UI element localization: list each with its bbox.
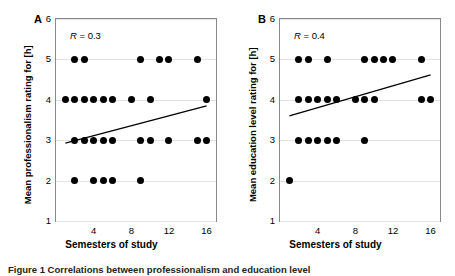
y-tick-label: 3 [270,135,275,145]
panel-b-letter: B [258,14,266,25]
y-tick-label: 4 [46,95,51,105]
data-point [418,96,425,103]
panel-a: A Mean professionalism rating for [h] R … [0,0,227,258]
regression-line [56,19,216,221]
data-point [109,137,116,144]
data-point [324,56,331,63]
data-point [81,56,88,63]
data-point [380,56,387,63]
data-point [81,137,88,144]
data-point [100,96,107,103]
x-tick-label: 8 [129,226,134,236]
gridline-y [56,221,216,222]
x-tick-label: 12 [164,226,175,236]
data-point [305,137,312,144]
data-point [333,137,340,144]
data-point [147,96,154,103]
x-tick-label: 4 [91,226,96,236]
data-point [286,177,293,184]
y-tick-label: 2 [46,176,51,186]
y-tick-label: 3 [46,135,51,145]
data-point [203,137,210,144]
x-tick-label: 4 [315,226,320,236]
data-point [194,56,201,63]
data-point [71,137,78,144]
y-tick-label: 1 [270,216,275,226]
y-tick-label: 1 [46,216,51,226]
data-point [90,137,97,144]
data-point [371,56,378,63]
data-point [418,56,425,63]
panel-b-plot-area: R = 0.4 123456481216 [279,18,441,222]
x-tick-label: 12 [388,226,399,236]
y-tick-label: 6 [270,14,275,24]
data-point [305,96,312,103]
x-tick-label: 16 [201,226,212,236]
data-point [147,137,154,144]
panel-b-x-axis-title: Semesters of study [222,240,449,250]
data-point [109,177,116,184]
figure-caption: Figure 1 Correlations between profession… [8,264,448,276]
data-point [324,96,331,103]
data-point [156,56,163,63]
data-point [137,137,144,144]
x-tick-label: 8 [353,226,358,236]
data-point [295,137,302,144]
regression-line [280,19,440,221]
y-tick-label: 5 [46,55,51,65]
data-point [324,137,331,144]
data-point [100,137,107,144]
y-tick-label: 5 [270,55,275,65]
y-tick-label: 2 [270,176,275,186]
panel-b: B Mean education level rating for [h] R … [228,0,455,258]
panel-b-y-axis-title: Mean education level rating for [h] [248,30,258,220]
panel-a-plot-area: R = 0.3 123456481216 [55,18,217,222]
data-point [314,137,321,144]
data-point [361,137,368,144]
data-point [100,177,107,184]
data-point [371,96,378,103]
gridline-y [280,221,440,222]
panel-a-x-axis-title: Semesters of study [0,240,225,250]
y-tick-label: 6 [46,14,51,24]
y-tick-label: 4 [270,95,275,105]
panel-a-y-axis-title: Mean professionalism rating for [h] [23,30,33,220]
data-point [194,137,201,144]
data-point [81,96,88,103]
x-tick-label: 16 [425,226,436,236]
data-point [305,56,312,63]
panel-a-letter: A [34,14,42,25]
